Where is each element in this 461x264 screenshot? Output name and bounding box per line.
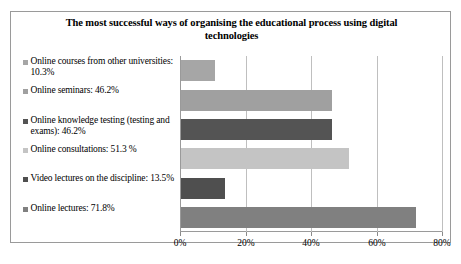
x-tick-label: 80% — [422, 238, 461, 248]
x-tick-label: 40% — [291, 238, 331, 248]
bar — [181, 148, 349, 169]
x-tick-label: 20% — [226, 238, 266, 248]
x-tick-label: 60% — [357, 238, 397, 248]
legend-label: Online knowledge testing (testing and ex… — [31, 115, 180, 136]
legend-swatch-icon — [23, 207, 28, 212]
gridline-80pct — [442, 56, 443, 232]
legend-item: Online knowledge testing (testing and ex… — [23, 115, 179, 136]
tick-mark — [377, 232, 378, 236]
bar — [181, 90, 332, 111]
legend-item: Video lectures on the discipline: 13.5% — [23, 173, 179, 184]
bar — [181, 119, 332, 140]
tick-mark — [180, 232, 181, 236]
tick-mark — [311, 232, 312, 236]
bar — [181, 178, 225, 199]
legend-item: Online seminars: 46.2% — [23, 85, 179, 96]
legend-swatch-icon — [23, 60, 28, 65]
tick-mark — [442, 232, 443, 236]
tick-mark — [246, 232, 247, 236]
legend-label: Video lectures on the discipline: 13.5% — [31, 173, 174, 184]
bar — [181, 60, 215, 81]
legend-item: Online consultations: 51.3 % — [23, 144, 179, 155]
legend-label: Online courses from other universities: … — [31, 56, 180, 77]
legend-swatch-icon — [23, 89, 28, 94]
legend-label: Online consultations: 51.3 % — [31, 144, 137, 155]
chart-legend: Online courses from other universities: … — [23, 52, 179, 232]
plot-area — [180, 56, 442, 232]
x-tick-label: 0% — [160, 238, 200, 248]
chart-container: The most successful ways of organising t… — [10, 11, 451, 243]
legend-item: Online courses from other universities: … — [23, 56, 179, 77]
legend-swatch-icon — [23, 119, 28, 124]
chart-title: The most successful ways of organising t… — [39, 17, 424, 42]
gridline-60pct — [377, 56, 378, 232]
legend-label: Online lectures: 71.8% — [31, 203, 115, 214]
legend-swatch-icon — [23, 148, 28, 153]
legend-label: Online seminars: 46.2% — [31, 85, 119, 96]
gridline-40pct — [311, 56, 312, 232]
legend-item: Online lectures: 71.8% — [23, 203, 179, 214]
legend-swatch-icon — [23, 177, 28, 182]
bar — [181, 207, 416, 228]
y-axis-line — [180, 56, 181, 232]
gridline-20pct — [246, 56, 247, 232]
